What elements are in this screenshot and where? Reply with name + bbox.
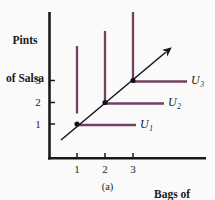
x-tick-label-3: 3 (126, 163, 140, 175)
curve-label-u2: U2 (168, 96, 180, 109)
curve-label-u1: U1 (140, 118, 152, 131)
x-tick-label-2: 2 (98, 163, 112, 175)
indifference-curve-figure: Pints of Salsa Bags of tortilla chips 3 … (0, 0, 215, 200)
y-axis-title-line1: Pints (6, 34, 44, 47)
curve-u3 (133, 12, 187, 82)
curve-label-u2-base: U (168, 95, 177, 109)
panel-caption: (a) (0, 181, 215, 193)
x-tick-label-1: 1 (70, 163, 84, 175)
curve-label-u1-base: U (140, 117, 149, 131)
curve-label-u3: U3 (191, 74, 203, 87)
y-tick-label-3: 3 (31, 74, 45, 86)
curve-u2 (105, 31, 164, 104)
vertex-dot-u3 (130, 78, 135, 83)
vertex-dot-u1 (74, 121, 79, 126)
curve-label-u3-base: U (191, 73, 200, 87)
y-tick-label-1: 1 (31, 118, 45, 130)
curve-label-u2-subscript: 2 (177, 102, 181, 111)
curve-label-u3-subscript: 3 (200, 80, 204, 89)
vertex-dot-u2 (102, 100, 107, 105)
curve-label-u1-subscript: 1 (149, 124, 153, 133)
y-tick-label-2: 2 (31, 96, 45, 108)
